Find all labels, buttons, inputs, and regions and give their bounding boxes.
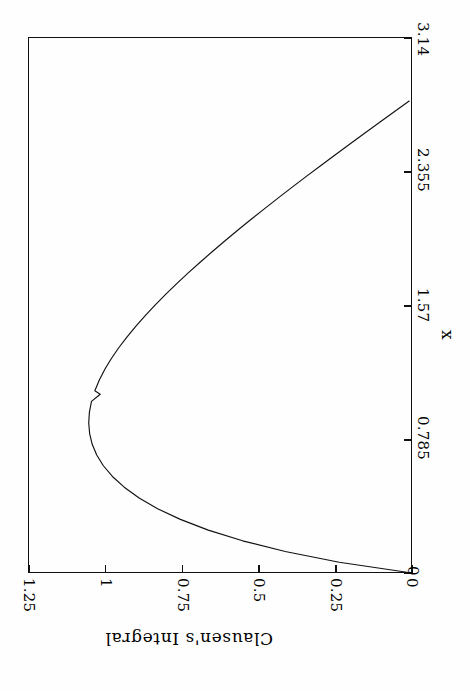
xtick-mark-1.57 (404, 305, 412, 307)
xtick-label-1.57: 1.57 (415, 288, 430, 322)
chart-figure: 1.25 1 0.75 0.5 0.25 0 3.14 2.355 1.57 0… (0, 0, 470, 691)
ytick-mark-1.25 (28, 565, 30, 573)
y-axis-title: Clausen's Integral (105, 630, 273, 647)
ytick-mark-0.25 (335, 565, 337, 573)
x-axis-title: x (439, 330, 456, 340)
xtick-mark-3.14 (404, 37, 412, 39)
ytick-mark-0.5 (258, 565, 260, 573)
xtick-mark-0.785 (404, 439, 412, 441)
ytick-label-0: 0 (404, 578, 419, 588)
ytick-label-0.75: 0.75 (175, 578, 190, 612)
xtick-label-0: 0 (405, 566, 420, 576)
ytick-mark-1 (105, 565, 107, 573)
xtick-label-3.14: 3.14 (415, 22, 430, 56)
xtick-label-0.785: 0.785 (415, 416, 430, 460)
ytick-mark-0.75 (182, 565, 184, 573)
ytick-label-0.5: 0.5 (251, 578, 266, 602)
data-series-clausen-integral (89, 101, 412, 573)
plot-curve-layer (28, 37, 412, 573)
ytick-label-1: 1 (98, 578, 113, 588)
ytick-label-1.25: 1.25 (21, 578, 36, 612)
xtick-label-2.355: 2.355 (415, 148, 430, 192)
ytick-label-0.25: 0.25 (328, 578, 343, 612)
xtick-mark-2.355 (404, 171, 412, 173)
